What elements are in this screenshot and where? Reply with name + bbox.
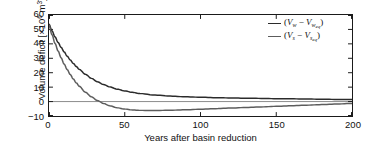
x-axis-title: Years after basin reduction bbox=[48, 133, 353, 143]
legend-vw-close: ) bbox=[320, 17, 323, 27]
chart-legend: (Vw − Vweq) (Vs − Vseq) bbox=[268, 17, 354, 43]
legend-label-vw: (Vw − Vweq) bbox=[284, 18, 323, 29]
legend-swatch-vw bbox=[268, 23, 281, 24]
legend-vs-minus: − bbox=[295, 30, 305, 40]
x-tick-label: 0 bbox=[45, 120, 50, 130]
x-tick-label: 150 bbox=[269, 120, 285, 130]
legend-vs-close: ) bbox=[317, 30, 320, 40]
legend-swatch-vs bbox=[268, 36, 281, 37]
legend-vs-sub2: seq bbox=[310, 35, 317, 41]
x-tick-label: 50 bbox=[119, 120, 130, 130]
x-tick-label: 100 bbox=[193, 120, 209, 130]
legend-vw-minus: − bbox=[297, 17, 307, 27]
legend-item-vs: (Vs − Vseq) bbox=[268, 30, 354, 43]
legend-item-vw: (Vw − Vweq) bbox=[268, 17, 354, 30]
legend-label-vs: (Vs − Vseq) bbox=[284, 31, 320, 42]
x-tick-label: 200 bbox=[345, 120, 361, 130]
volume-deficit-chart-figure: Volume deficit [×106 m3] −10010203040506… bbox=[0, 0, 376, 151]
